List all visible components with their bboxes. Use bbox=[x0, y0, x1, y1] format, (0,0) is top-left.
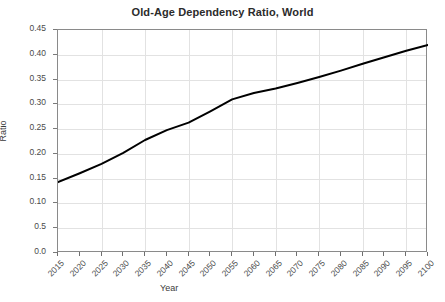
x-tick-label: 2075 bbox=[300, 258, 327, 285]
x-tick-mark bbox=[101, 252, 102, 256]
x-tick-label: 2020 bbox=[61, 258, 88, 285]
x-tick-label: 2090 bbox=[366, 258, 393, 285]
x-tick-mark bbox=[275, 252, 276, 256]
x-tick-mark bbox=[166, 252, 167, 256]
y-tick-mark bbox=[53, 128, 57, 129]
x-tick-mark bbox=[231, 252, 232, 256]
x-tick-mark bbox=[318, 252, 319, 256]
x-tick-label: 2085 bbox=[344, 258, 371, 285]
line-series-world bbox=[58, 30, 428, 253]
x-tick-mark bbox=[383, 252, 384, 256]
y-axis-title: Ratio bbox=[0, 120, 8, 141]
y-tick-mark bbox=[53, 178, 57, 179]
x-tick-mark bbox=[296, 252, 297, 256]
x-tick-mark bbox=[405, 252, 406, 256]
y-tick-mark bbox=[53, 202, 57, 203]
y-tick-label: 0.10 bbox=[0, 196, 46, 206]
y-tick-mark bbox=[53, 29, 57, 30]
y-tick-label: 0.0 bbox=[0, 246, 46, 256]
x-tick-mark bbox=[122, 252, 123, 256]
x-tick-label: 2070 bbox=[279, 258, 306, 285]
x-tick-label: 2045 bbox=[170, 258, 197, 285]
x-tick-label: 2040 bbox=[148, 258, 175, 285]
chart-figure: Old-Age Dependency Ratio, World 0.450.40… bbox=[0, 0, 445, 302]
x-tick-label: 2080 bbox=[322, 258, 349, 285]
x-tick-label: 2025 bbox=[83, 258, 110, 285]
plot-area bbox=[57, 29, 427, 252]
x-tick-label: 2060 bbox=[235, 258, 262, 285]
x-tick-label: 2035 bbox=[126, 258, 153, 285]
y-tick-mark bbox=[53, 54, 57, 55]
y-tick-mark bbox=[53, 103, 57, 104]
y-tick-label: 0.40 bbox=[0, 48, 46, 58]
x-tick-label: 2100 bbox=[409, 258, 436, 285]
y-tick-mark bbox=[53, 227, 57, 228]
y-tick-label: 0.45 bbox=[0, 23, 46, 33]
x-tick-mark bbox=[144, 252, 145, 256]
x-tick-mark bbox=[79, 252, 80, 256]
x-tick-mark bbox=[253, 252, 254, 256]
y-tick-label: 0.15 bbox=[0, 172, 46, 182]
x-tick-label: 2095 bbox=[387, 258, 414, 285]
x-tick-label: 2015 bbox=[39, 258, 66, 285]
x-tick-label: 2065 bbox=[257, 258, 284, 285]
chart-title: Old-Age Dependency Ratio, World bbox=[0, 6, 445, 18]
x-tick-label: 2055 bbox=[213, 258, 240, 285]
x-axis-title: Year bbox=[160, 283, 178, 293]
x-tick-mark bbox=[362, 252, 363, 256]
y-tick-label: 0.5 bbox=[0, 221, 46, 231]
y-tick-label: 0.20 bbox=[0, 147, 46, 157]
y-tick-mark bbox=[53, 153, 57, 154]
y-tick-label: 0.30 bbox=[0, 97, 46, 107]
x-tick-mark bbox=[57, 252, 58, 256]
series-layer bbox=[58, 30, 426, 251]
x-tick-label: 2050 bbox=[192, 258, 219, 285]
x-tick-mark bbox=[209, 252, 210, 256]
y-tick-mark bbox=[53, 79, 57, 80]
x-tick-label: 2030 bbox=[104, 258, 131, 285]
x-tick-mark bbox=[340, 252, 341, 256]
y-tick-label: 0.35 bbox=[0, 73, 46, 83]
x-tick-mark bbox=[427, 252, 428, 256]
x-tick-mark bbox=[188, 252, 189, 256]
